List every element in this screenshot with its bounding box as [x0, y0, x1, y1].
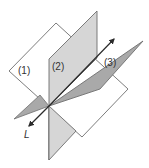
plane-2-label: (2)	[52, 61, 64, 72]
plane-3-label: (3)	[104, 57, 116, 68]
plane-1-label: (1)	[18, 65, 30, 76]
line-L-label: L	[24, 129, 30, 140]
three-planes-diagram: (1) (2) (3) L	[0, 0, 149, 168]
